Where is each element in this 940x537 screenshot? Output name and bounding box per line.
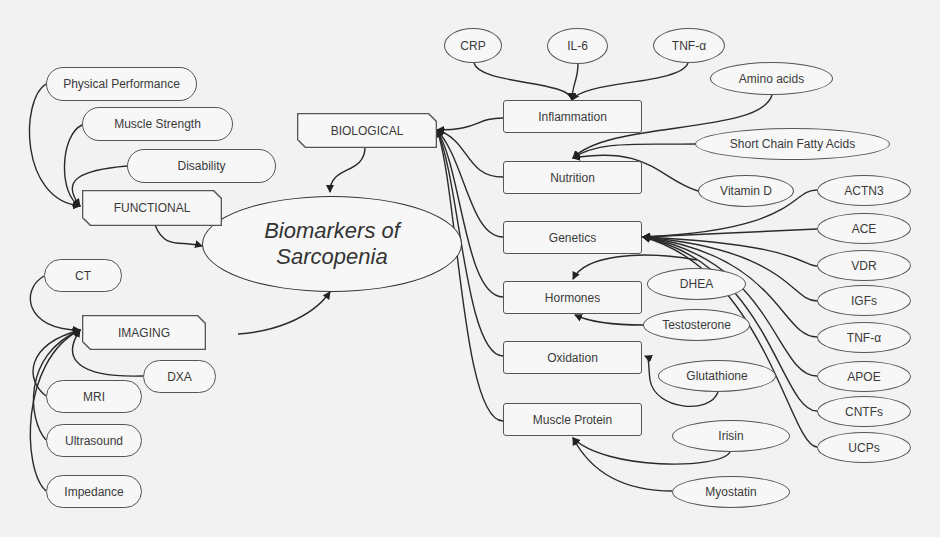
nutrition-item-vitamin-d: Vitamin D bbox=[698, 175, 794, 207]
functional-item-physical-performance: Physical Performance bbox=[46, 67, 197, 101]
inflammation-item-crp: CRP bbox=[444, 28, 502, 63]
oxidation-item-glutathione: Glutathione bbox=[658, 360, 776, 392]
inflammation-item-il6: IL-6 bbox=[547, 28, 608, 64]
group-oxidation: Oxidation bbox=[503, 341, 642, 374]
group-genetics: Genetics bbox=[503, 221, 642, 254]
imaging-item-ct: CT bbox=[44, 259, 122, 292]
genetics-item-igfs: IGFs bbox=[817, 285, 911, 316]
genetics-item-cntfs: CNTFs bbox=[817, 396, 911, 427]
functional-item-disability: Disability bbox=[127, 149, 276, 183]
hormones-item-testosterone: Testosterone bbox=[643, 309, 750, 341]
group-nutrition: Nutrition bbox=[503, 161, 642, 194]
category-imaging: IMAGING bbox=[82, 315, 206, 350]
center-title-line1: Biomarkers of bbox=[264, 218, 400, 244]
genetics-item-tnf-alpha: TNF-α bbox=[817, 322, 911, 353]
imaging-item-ultrasound: Ultrasound bbox=[46, 424, 142, 457]
imaging-item-dxa: DXA bbox=[143, 360, 216, 393]
category-functional: FUNCTIONAL bbox=[82, 190, 222, 226]
center-node-biomarkers-of-sarcopenia: Biomarkers of Sarcopenia bbox=[202, 196, 462, 292]
inflammation-item-tnf-alpha: TNF-α bbox=[653, 28, 725, 63]
nutrition-item-short-chain-fatty-acids: Short Chain Fatty Acids bbox=[695, 128, 890, 160]
center-title-line2: Sarcopenia bbox=[276, 244, 387, 270]
functional-item-muscle-strength: Muscle Strength bbox=[82, 107, 233, 141]
group-inflammation: Inflammation bbox=[503, 100, 642, 133]
imaging-item-mri: MRI bbox=[46, 380, 142, 413]
category-biological-label: BIOLOGICAL bbox=[298, 114, 435, 146]
category-biological: BIOLOGICAL bbox=[297, 113, 437, 148]
genetics-item-ace: ACE bbox=[817, 213, 911, 244]
category-functional-label: FUNCTIONAL bbox=[83, 191, 220, 224]
genetics-item-apoe: APOE bbox=[817, 361, 911, 392]
hormones-item-dhea: DHEA bbox=[647, 268, 746, 300]
imaging-item-impedance: Impedance bbox=[46, 475, 142, 508]
muscle-protein-item-myostatin: Myostatin bbox=[672, 476, 790, 508]
group-muscle-protein: Muscle Protein bbox=[503, 403, 642, 436]
nutrition-item-amino-acids: Amino acids bbox=[710, 62, 833, 95]
category-imaging-label: IMAGING bbox=[83, 316, 204, 348]
genetics-item-vdr: VDR bbox=[817, 250, 911, 281]
muscle-protein-item-irisin: Irisin bbox=[672, 420, 790, 452]
genetics-item-actn3: ACTN3 bbox=[817, 175, 911, 206]
group-hormones: Hormones bbox=[503, 281, 642, 314]
genetics-item-ucps: UCPs bbox=[817, 432, 911, 463]
